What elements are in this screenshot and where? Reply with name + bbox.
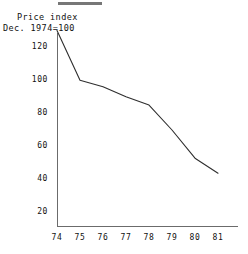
y-tick-label: 20 bbox=[14, 207, 48, 216]
axes bbox=[57, 33, 238, 227]
y-tick-label: 60 bbox=[14, 141, 48, 150]
x-tick-label: 80 bbox=[184, 233, 206, 242]
x-tick-label: 81 bbox=[207, 233, 229, 242]
x-tick-label: 75 bbox=[69, 233, 91, 242]
x-tick-label: 79 bbox=[161, 233, 183, 242]
x-tick-label: 78 bbox=[138, 233, 160, 242]
y-tick-label: 80 bbox=[14, 108, 48, 117]
data-series-line bbox=[57, 30, 218, 173]
x-tick-label: 77 bbox=[115, 233, 137, 242]
y-tick-label: 40 bbox=[14, 174, 48, 183]
x-tick-label: 76 bbox=[92, 233, 114, 242]
y-tick-label: 100 bbox=[14, 75, 48, 84]
x-tick-label: 74 bbox=[46, 233, 68, 242]
y-tick-label: 120 bbox=[14, 42, 48, 51]
chart-figure: Price indexDec. 1974=100 120 100 80 60 4… bbox=[0, 0, 248, 254]
